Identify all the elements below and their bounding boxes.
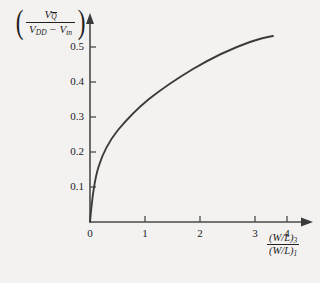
y-axis-label-numerator: VQ xyxy=(41,9,59,22)
y-axis-label-denominator: VDD − Vtn xyxy=(26,23,75,36)
x-tick-label-2: 2 xyxy=(192,228,208,239)
x-axis-label-denominator: (W/L)1 xyxy=(267,245,299,257)
y-tick-label-0.3: 0.3 xyxy=(58,111,84,122)
y-axis-label-fraction: VQ VDD − Vtn xyxy=(26,9,75,36)
left-paren: ( xyxy=(16,8,24,36)
y-tick-label-0.4: 0.4 xyxy=(58,76,84,87)
right-paren: ) xyxy=(78,8,86,36)
data-curve xyxy=(90,36,273,222)
x-axis-label: (W/L)3 (W/L)1 xyxy=(267,232,299,257)
x-tick-label-1: 1 xyxy=(137,228,153,239)
x-axis-arrow-icon xyxy=(301,218,313,227)
y-tick-label-0.5: 0.5 xyxy=(58,41,84,52)
x-tick-label-3: 3 xyxy=(247,228,263,239)
figure-container: 0.5 0.4 0.3 0.2 0.1 0 1 2 3 4 ( VQ VDD −… xyxy=(0,0,320,283)
x-tick-label-0: 0 xyxy=(82,228,98,239)
y-tick-label-0.2: 0.2 xyxy=(58,146,84,157)
y-axis-label: ( VQ VDD − Vtn ) xyxy=(14,8,87,36)
y-tick-label-0.1: 0.1 xyxy=(58,181,84,192)
y-axis-arrow-icon xyxy=(86,13,94,24)
x-axis-label-numerator: (W/L)3 xyxy=(267,232,299,244)
